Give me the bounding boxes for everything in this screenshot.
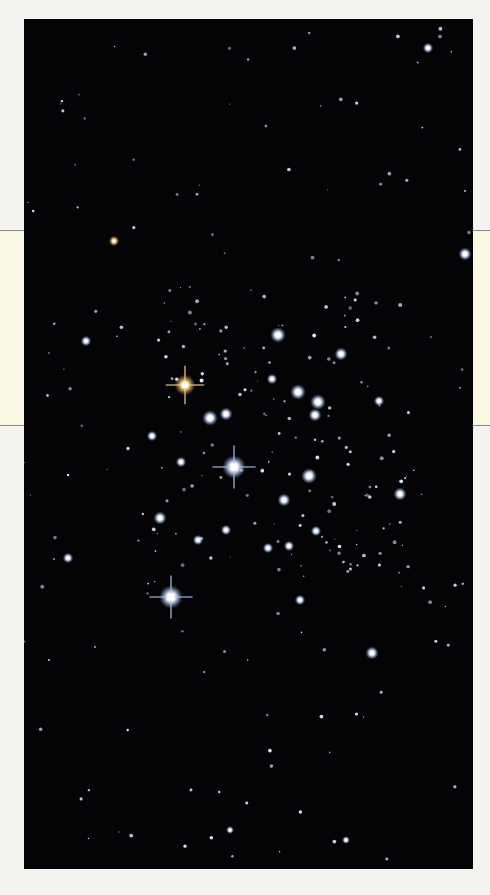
star	[109, 236, 119, 246]
star	[221, 525, 231, 535]
bright-stars	[63, 43, 472, 844]
star	[309, 409, 322, 422]
star	[81, 336, 91, 346]
star	[166, 366, 204, 404]
star	[423, 43, 433, 53]
star	[310, 394, 326, 410]
star	[366, 647, 379, 660]
star	[284, 541, 294, 551]
faint-stars	[24, 27, 471, 861]
star	[311, 526, 321, 536]
star	[459, 248, 472, 261]
star	[290, 384, 306, 400]
starfield-svg	[24, 19, 473, 869]
star	[193, 535, 203, 545]
star	[394, 488, 407, 501]
star	[63, 553, 73, 563]
star	[220, 408, 233, 421]
star	[267, 374, 277, 384]
star	[342, 836, 350, 844]
star-cluster-photo	[24, 19, 473, 869]
star	[202, 410, 218, 426]
star	[226, 826, 234, 834]
star	[263, 543, 273, 553]
star	[154, 512, 167, 525]
star	[147, 431, 157, 441]
star	[374, 396, 384, 406]
star	[295, 595, 305, 605]
star	[270, 327, 286, 343]
star	[278, 494, 291, 507]
star	[335, 348, 348, 361]
star	[301, 468, 317, 484]
star	[149, 575, 192, 618]
star	[176, 457, 186, 467]
star	[212, 445, 255, 488]
